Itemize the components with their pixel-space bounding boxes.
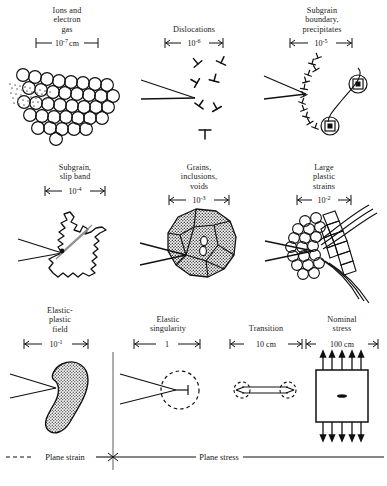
scale-bar-subgrain-boundary-precipitates: 10-5 [262, 36, 382, 49]
cell-large-plastic-strains: Large plastic strains 10-2 [265, 163, 383, 303]
scale-label-grains-inclusions-voids: 10-3 [193, 195, 206, 205]
precipitate-lower [321, 117, 339, 135]
precipitate-upper [349, 75, 367, 93]
scale-bar-transition: 10 cm [222, 337, 310, 350]
scale-bar-ions-electron-gas: 10-7cm [8, 36, 126, 49]
scale-label-nominal-stress: 100 cm [330, 340, 355, 349]
art-polycrystal-blob-with-voids [140, 205, 258, 305]
scale-bar-elastic-plastic-field: 10-1 [8, 337, 112, 350]
cell-grains-inclusions-voids: Grains, inclusions, voids 10-3 [140, 163, 258, 303]
art-jagged-subgrain-with-slip-band [16, 199, 134, 299]
art-dislocation-symbols-with-crack [135, 50, 253, 150]
scale-bar-elastic-singularity: 1 [118, 337, 218, 350]
plane-strain-label: Plane strain [45, 453, 85, 462]
cell-ions-electron-gas: Ions and electron gas 10-7cm [8, 6, 126, 151]
scale-bar-subgrain-slip-band: 10-4 [16, 184, 134, 197]
scale-label-dislocations: 10-6 [188, 38, 201, 48]
cell-subgrain-boundary-precipitates: Subgrain boundary, precipitates 10-5 [262, 6, 382, 151]
caption-grains-inclusions-voids: Grains, inclusions, voids [140, 163, 258, 191]
art-distorted-grains-with-flow-lines [265, 205, 383, 305]
plane-stress-label: Plane stress [199, 453, 238, 462]
scale-bar-nominal-stress: 100 cm [300, 337, 384, 350]
scale-label-transition: 10 cm [256, 340, 277, 349]
cell-dislocations: Dislocations 10-6 [135, 6, 253, 151]
scale-label-large-plastic-strains: 10-2 [318, 195, 331, 205]
cell-subgrain-slip-band: Subgrain, slip band 10-4 [16, 163, 134, 303]
caption-dislocations: Dislocations [135, 25, 253, 34]
art-atom-lattice-with-crack [8, 50, 126, 150]
regime-bar: Plane strain Plane stress [0, 352, 387, 486]
caption-ions-electron-gas: Ions and electron gas [8, 6, 126, 34]
scale-label-subgrain-boundary-precipitates: 10-5 [315, 38, 328, 48]
art-subgrain-boundary-and-precipitates [262, 50, 382, 150]
scale-label-subgrain-slip-band: 10-4 [69, 186, 82, 196]
length-scale-figure: Ions and electron gas 10-7cm [0, 0, 387, 486]
scale-label-ions-electron-gas: 10-7cm [55, 38, 80, 48]
scale-label-elastic-plastic-field: 10-1 [50, 339, 63, 349]
caption-elastic-singularity: Elastic singularity [118, 315, 218, 334]
scale-label-elastic-singularity: 1 [165, 340, 169, 349]
scale-bar-dislocations: 10-6 [135, 36, 253, 49]
caption-subgrain-boundary-precipitates: Subgrain boundary, precipitates [262, 6, 382, 34]
caption-subgrain-slip-band: Subgrain, slip band [16, 163, 134, 182]
caption-elastic-plastic-field: Elastic- plastic field [8, 306, 112, 334]
caption-transition: Transition [222, 324, 310, 333]
caption-large-plastic-strains: Large plastic strains [265, 163, 383, 191]
caption-nominal-stress: Nominal stress [300, 315, 384, 334]
